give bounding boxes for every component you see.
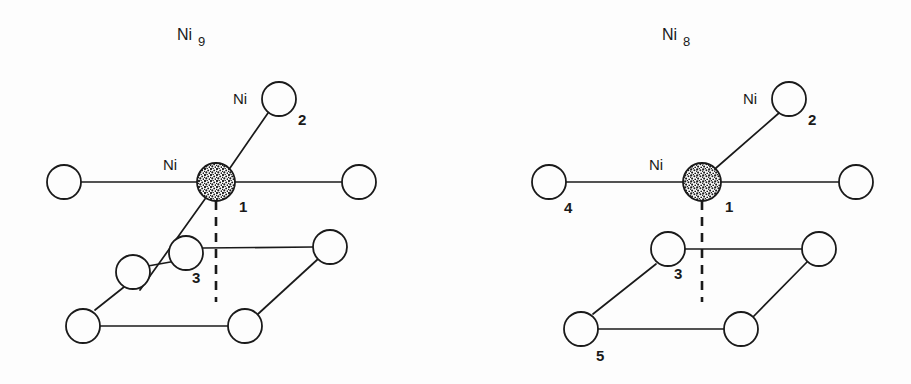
label-ni9-apex-index: 2 [298,111,306,128]
bond-bottomright-to-midright [753,262,807,317]
panel-ni8-title: Ni [662,26,677,43]
bond-extra-to-bottomleft [95,287,124,310]
atom-ni9-bottom-right[interactable] [228,309,262,343]
bond-center-to-apex [230,113,268,168]
label-ni8-mid-index: 3 [674,265,682,282]
bond-atom3-to-atom5 [593,264,656,314]
ni9-bond-group [81,113,342,326]
panel-ni8-title-subscript: 8 [683,34,690,49]
atom-ni8-apex-2[interactable] [772,82,806,116]
label-ni9-mid-index: 3 [192,269,200,286]
figure-root: Ni 9 [0,0,911,384]
label-ni9-apex-element: Ni [233,90,247,107]
atom-ni8-right[interactable] [839,165,873,199]
atom-ni9-right[interactable] [342,165,376,199]
label-ni8-bottom-left-index: 5 [596,347,604,364]
label-ni8-center-element: Ni [649,156,663,173]
atom-ni8-bottom-left-5[interactable] [564,312,598,346]
bond-atom3-to-midright [203,247,313,248]
ni9-diagram: Ni 9 [0,0,455,384]
panel-ni9: Ni 9 [0,0,455,384]
atom-ni8-bottom-right[interactable] [724,312,758,346]
ni8-atom-group [532,82,873,346]
atom-ni8-left-4[interactable] [532,165,566,199]
panel-ni8: Ni 8 [456,0,911,384]
atom-ni9-bottom-left[interactable] [66,309,100,343]
atom-ni9-left[interactable] [47,165,81,199]
label-ni9-center-index: 1 [239,198,247,215]
label-ni9-center-element: Ni [163,156,177,173]
bond-center-to-apex [716,113,779,168]
label-ni8-center-index: 1 [725,198,733,215]
atom-ni9-extra-ninth[interactable] [116,255,150,289]
atom-ni8-mid-3[interactable] [651,232,685,266]
ni8-diagram: Ni 8 [456,0,911,384]
atom-ni9-mid-right[interactable] [313,230,347,264]
label-ni8-apex-element: Ni [743,90,757,107]
atom-ni9-center-1[interactable] [197,163,235,201]
bond-bottomright-to-midright [258,259,318,314]
atom-ni8-mid-right[interactable] [802,232,836,266]
panel-ni9-title-subscript: 9 [198,34,205,49]
ni8-bond-group [566,113,839,329]
atom-ni9-mid-3[interactable] [169,236,203,270]
label-ni8-apex-index: 2 [808,111,816,128]
atom-ni9-apex-2[interactable] [262,82,296,116]
panel-ni9-title: Ni [177,26,192,43]
label-ni8-left-index: 4 [564,199,573,216]
ni9-atom-group [47,82,376,343]
atom-ni8-center-1[interactable] [683,163,721,201]
